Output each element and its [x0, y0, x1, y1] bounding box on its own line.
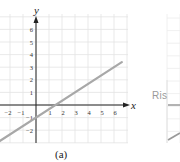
svg-text:−2: −2 [26, 127, 33, 134]
svg-text:−2: −2 [5, 109, 12, 116]
svg-text:3: 3 [30, 64, 33, 71]
svg-text:6: 6 [113, 109, 117, 116]
data-line [0, 62, 122, 143]
graph-a: yx −2−1123456−2−1123456 [0, 0, 180, 162]
svg-text:x: x [130, 99, 136, 111]
svg-text:1: 1 [30, 89, 33, 96]
graph-b-partial [167, 14, 180, 143]
figure: yx −2−1123456−2−1123456 (a) Ris [0, 0, 180, 162]
svg-text:4: 4 [87, 109, 91, 116]
caption-a: (a) [55, 148, 67, 160]
svg-text:2: 2 [30, 76, 33, 83]
svg-text:2: 2 [61, 109, 64, 116]
svg-text:−1: −1 [18, 109, 25, 116]
svg-text:5: 5 [100, 109, 103, 116]
rise-label: Ris [152, 90, 167, 101]
grid-lines [0, 14, 128, 143]
svg-text:3: 3 [74, 109, 77, 116]
svg-text:y: y [33, 4, 39, 16]
axes: yx [0, 4, 136, 143]
svg-text:5: 5 [30, 39, 33, 46]
